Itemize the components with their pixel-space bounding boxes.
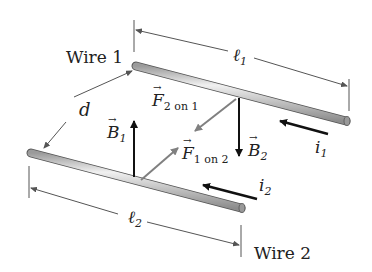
force-2-on-1-arrow bbox=[195, 99, 236, 131]
current-1-label: i1 bbox=[315, 139, 327, 156]
length-1-label: ℓ1 bbox=[233, 47, 247, 64]
force-2-on-1-label: F2 on 1 bbox=[152, 92, 199, 109]
force-1-on-2-arrow bbox=[141, 148, 178, 180]
field-2-label: B2 bbox=[248, 142, 268, 159]
field-1-label: B1 bbox=[107, 124, 127, 141]
wire-1-label: Wire 1 bbox=[66, 49, 123, 66]
current-1-arrow bbox=[280, 121, 328, 134]
wire-2-label: Wire 2 bbox=[254, 245, 311, 262]
separation-label: d bbox=[79, 101, 91, 119]
current-2-label: i2 bbox=[259, 177, 271, 194]
force-1-on-2-label: F1 on 2 bbox=[182, 145, 229, 162]
parallel-wires-diagram: Wire 1 Wire 2 ℓ1 ℓ2 d i1 i2 B1 B2 F2 on … bbox=[0, 0, 372, 272]
length-2-label: ℓ2 bbox=[128, 209, 142, 226]
